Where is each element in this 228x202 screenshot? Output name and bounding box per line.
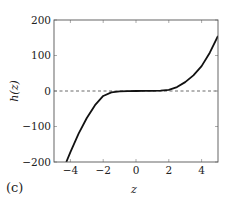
x-axis-label: z — [130, 183, 137, 196]
y-axis-label: h(z) — [8, 80, 21, 101]
x-tick-label: 0 — [133, 164, 140, 176]
y-tick-label: 100 — [31, 49, 51, 61]
y-tick-label: −200 — [22, 156, 51, 168]
x-tick-label: 2 — [165, 164, 172, 176]
plot-area: −4−2024−200−1000100200 — [22, 14, 218, 177]
x-tick-label: −2 — [95, 164, 110, 176]
series-line — [66, 36, 218, 162]
y-tick-label: 0 — [44, 85, 51, 97]
y-tick-label: 200 — [31, 14, 51, 26]
y-tick-label: −100 — [22, 120, 51, 132]
chart: −4−2024−200−1000100200 (c) z h(z) — [0, 0, 228, 202]
panel-label: (c) — [6, 180, 23, 195]
x-tick-label: −4 — [63, 164, 79, 176]
x-tick-label: 4 — [198, 164, 205, 176]
